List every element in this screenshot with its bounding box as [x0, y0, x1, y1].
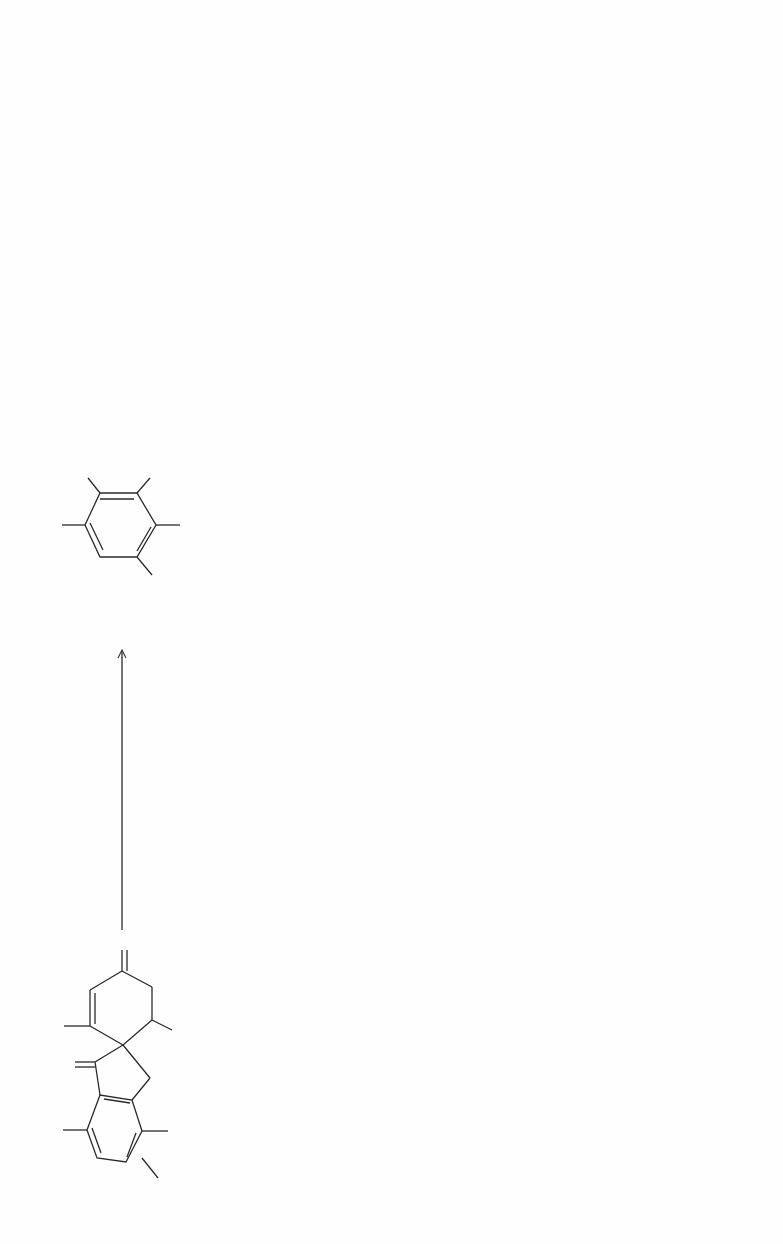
chloro-acid-bonds [62, 478, 180, 575]
griseofulvin-bonds [63, 950, 172, 1178]
scheme-graphics [0, 0, 783, 1244]
degradation-scheme [0, 0, 783, 1244]
